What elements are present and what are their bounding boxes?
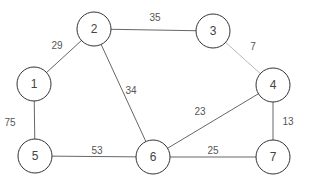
- edge-weight-label: 23: [194, 106, 206, 117]
- edge-weight-label: 75: [4, 117, 16, 128]
- edge-2-6: [94, 29, 153, 157]
- node-label: 1: [31, 77, 38, 91]
- edges-layer: [34, 29, 273, 157]
- edge-weight-label: 53: [91, 145, 103, 156]
- edge-weight-label: 29: [51, 40, 63, 51]
- node-label: 3: [210, 24, 217, 38]
- edge-weight-label: 35: [149, 12, 161, 23]
- node-6: 6: [136, 140, 170, 174]
- edge-5-6: [35, 156, 153, 157]
- edge-2-3: [94, 29, 213, 31]
- node-2: 2: [77, 12, 111, 46]
- node-3: 3: [196, 14, 230, 48]
- edge-weight-label: 7: [250, 41, 256, 52]
- node-label: 5: [32, 149, 39, 163]
- edge-weight-label: 34: [125, 85, 137, 96]
- node-7: 7: [256, 140, 290, 174]
- node-4: 4: [256, 68, 290, 102]
- node-label: 7: [270, 150, 277, 164]
- edge-weight-label: 13: [282, 116, 294, 127]
- node-5: 5: [18, 139, 52, 173]
- node-1: 1: [17, 67, 51, 101]
- node-label: 6: [150, 150, 157, 164]
- nodes-layer: 1234567: [17, 12, 290, 174]
- edge-weight-label: 25: [207, 145, 219, 156]
- node-label: 2: [91, 22, 98, 36]
- graph-diagram: 29353477523135325 1234567: [0, 0, 311, 185]
- node-label: 4: [270, 78, 277, 92]
